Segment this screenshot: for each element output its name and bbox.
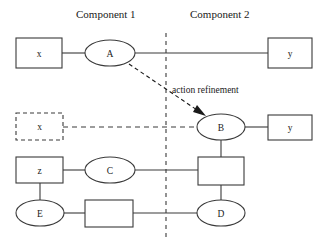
node-box-unlabeled-component1[interactable] — [85, 200, 133, 227]
action-refinement-arrowhead — [193, 105, 206, 116]
node-ellipse-e-label: E — [37, 209, 43, 219]
node-ellipse-d-label: D — [218, 209, 225, 219]
node-ellipse-b-label: B — [218, 123, 224, 133]
node-ellipse-a-label: A — [107, 49, 114, 59]
node-box-y-top-label: y — [288, 49, 293, 59]
diagram-graphics: x A y x B y z C E D action refinement — [0, 0, 327, 241]
node-box-y-middle-label: y — [288, 123, 293, 133]
node-box-x-top-label: x — [37, 49, 42, 59]
diagram-canvas: Component 1 Component 2 x A y x B y — [0, 0, 327, 241]
node-box-unlabeled-component2[interactable] — [198, 157, 244, 185]
node-ellipse-c-label: C — [107, 166, 113, 176]
node-box-z-label: z — [37, 166, 41, 176]
node-box-x-middle-label: x — [37, 122, 42, 132]
action-refinement-label: action refinement — [172, 85, 239, 95]
